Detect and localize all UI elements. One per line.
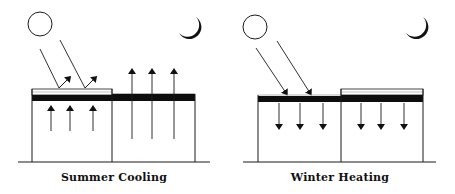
roof-thermal-mass (258, 96, 341, 102)
moon-icon (406, 17, 428, 39)
sunlight-ray-arrow (256, 48, 286, 93)
sunlight-ray (60, 40, 85, 88)
sun-icon (28, 12, 52, 36)
summer-cooling-panel (18, 12, 210, 162)
winter-heating-panel (243, 15, 436, 162)
winter-heating-caption: Winter Heating (240, 171, 440, 184)
roof-thermal-mass (112, 94, 195, 101)
sunlight-ray (40, 49, 59, 88)
reflected-ray-arrow (85, 78, 95, 88)
roof-thermal-mass (32, 95, 112, 101)
sun-icon (243, 15, 267, 39)
diagram-canvas (0, 0, 455, 194)
summer-cooling-caption: Summer Cooling (14, 171, 214, 184)
moon-icon (179, 17, 201, 39)
sunlight-ray-arrow (277, 41, 310, 93)
roof-thermal-mass (341, 95, 423, 102)
reflected-ray-arrow (59, 78, 69, 88)
